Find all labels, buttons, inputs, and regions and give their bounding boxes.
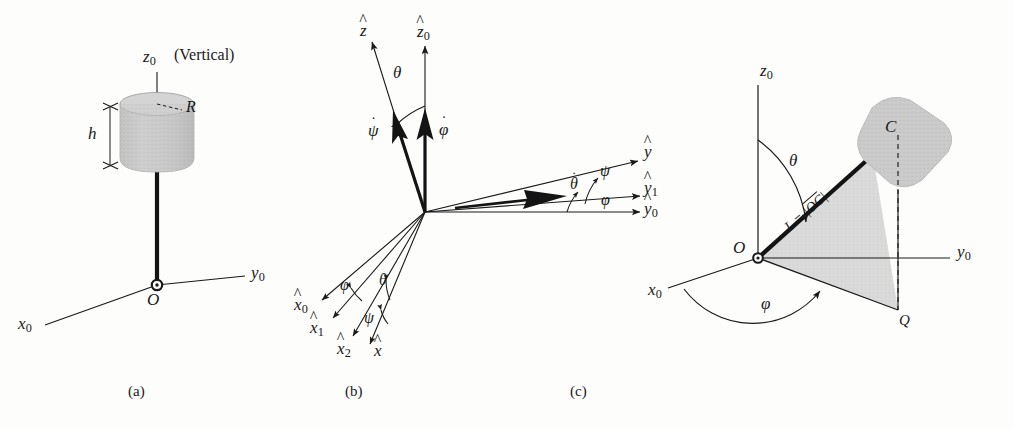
panel-b-x2-hat-label: ^x2 <box>337 340 351 357</box>
panel-c-caption: (c) <box>570 383 587 400</box>
panel-c-x-axis-label: x0 <box>648 281 662 298</box>
panel-a-origin-label: O <box>147 291 159 308</box>
panel-b-theta-arc-top <box>397 106 425 124</box>
panel-c-center-label: C <box>885 118 896 135</box>
panel-b-psi-right-label: ψ <box>600 163 610 179</box>
panel-b-x0-hat-label: ^x0 <box>294 296 308 313</box>
panel-c-x-axis <box>668 258 758 288</box>
panel-a-x-axis <box>45 285 157 325</box>
panel-b-graphics <box>322 42 640 344</box>
panel-a-vertical-note: (Vertical) <box>174 47 234 63</box>
panel-a-z-axis-label: z0 <box>143 48 156 65</box>
panel-b-theta-left-label: θ <box>379 272 387 288</box>
panel-a-y-axis-label: y0 <box>251 264 265 281</box>
panel-b-phi-left-label: φ <box>340 277 349 293</box>
panel-b-psidot-label: ·ψ <box>368 122 379 139</box>
panel-b-psi-left-label: ψ <box>364 310 374 326</box>
panel-b-theta-top-label: θ <box>393 64 401 81</box>
panel-c-phi-arc <box>684 289 820 323</box>
panel-b-caption: (b) <box>345 383 363 400</box>
panel-a-x-axis-label: x0 <box>18 315 32 332</box>
panel-c-y-axis-label: y0 <box>957 243 971 260</box>
panel-c-z-axis-label: z0 <box>760 62 773 79</box>
panel-a-cylinder-texture <box>120 104 194 172</box>
panel-b-phidot-label: ·φ <box>439 121 448 138</box>
panel-c-origin-center <box>756 256 759 259</box>
panel-b-psi-arc-left <box>381 310 388 324</box>
panel-a-graphics <box>45 72 245 325</box>
panel-b-x0-axis <box>322 212 425 300</box>
panel-c-origin-label: O <box>733 239 745 256</box>
panel-a-pivot-center <box>155 283 158 286</box>
panel-a-height-label: h <box>88 125 97 142</box>
panel-c-theta-label: θ <box>789 152 797 169</box>
panel-b-z-hat-label: ^z <box>360 22 367 39</box>
panel-b-y0-hat-label: ^y0 <box>644 200 658 217</box>
panel-a-radius-label: R <box>186 99 196 115</box>
panel-a-y-axis <box>157 276 245 285</box>
panel-b-x1-hat-label: ^x1 <box>310 319 324 336</box>
panel-b-psidot-vector-shaft <box>400 134 425 212</box>
panel-b-thetadot-label: ·θ <box>570 176 578 192</box>
panel-c-plane-texture <box>758 156 898 310</box>
panel-b-phi-arc-left <box>351 288 362 301</box>
panel-c-phi-label: φ <box>761 295 770 312</box>
panel-b-phi-arc-right <box>567 192 578 212</box>
panel-b-phi-right-label: φ <box>601 192 610 208</box>
panel-a-caption: (a) <box>128 383 145 400</box>
panel-b-y-hat-label: ^y <box>644 143 652 160</box>
panel-b-thetadot-vector-head <box>523 190 567 209</box>
panel-b-x-hat-label: ^x <box>374 342 382 359</box>
panel-b-x1-axis <box>333 212 425 318</box>
panel-c-projection-label: Q <box>899 313 910 328</box>
panel-b-z0-hat-label: ^z0 <box>417 23 430 40</box>
figure-canvas: z0 (Vertical) R h O y0 x0 ^z ^z0 θ ·ψ ·φ… <box>0 0 1013 429</box>
